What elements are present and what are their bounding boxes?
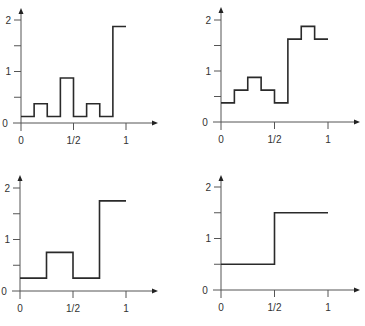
y-axis-arrow-icon — [219, 7, 224, 13]
y-tick-label: 0 — [1, 286, 7, 297]
x-axis-arrow-icon — [354, 288, 360, 293]
x-tick-label: 1/2 — [67, 135, 81, 146]
x-tick-label: 0 — [218, 302, 224, 313]
y-axis-arrow-icon — [19, 8, 24, 14]
chart-top-left: 01201/21 — [2, 8, 158, 146]
y-tick-label: 0 — [2, 118, 8, 129]
y-tick-label: 1 — [4, 234, 10, 245]
y-tick-label: 0 — [202, 117, 208, 128]
step-function-line — [221, 26, 328, 103]
step-function-line — [221, 213, 328, 265]
y-tick-label: 1 — [5, 66, 11, 77]
x-tick-label: 1 — [123, 135, 129, 146]
x-axis-arrow-icon — [354, 120, 360, 125]
step-function-line — [21, 26, 126, 116]
y-axis-arrow-icon — [219, 175, 224, 181]
y-tick-label: 1 — [205, 233, 211, 244]
y-tick-label: 1 — [205, 66, 211, 77]
x-tick-label: 1/2 — [268, 302, 282, 313]
y-tick-label: 2 — [4, 183, 10, 194]
x-tick-label: 0 — [218, 134, 224, 145]
y-tick-label: 2 — [5, 15, 11, 26]
chart-bottom-right: 01201/21 — [202, 175, 360, 313]
x-tick-label: 1 — [325, 302, 331, 313]
x-tick-label: 0 — [17, 303, 23, 314]
step-function-line — [20, 201, 126, 278]
x-tick-label: 1/2 — [268, 134, 282, 145]
x-tick-label: 1 — [123, 303, 129, 314]
y-axis-arrow-icon — [18, 175, 23, 181]
x-tick-label: 1 — [325, 134, 331, 145]
figure: 01201/21 01201/21 01201/21 01201/21 — [0, 0, 365, 326]
x-tick-label: 0 — [18, 135, 24, 146]
y-tick-label: 2 — [205, 15, 211, 26]
y-tick-label: 2 — [205, 182, 211, 193]
chart-bottom-left: 01201/21 — [1, 175, 158, 314]
chart-top-right: 01201/21 — [202, 7, 360, 145]
x-tick-label: 1/2 — [66, 303, 80, 314]
x-axis-arrow-icon — [152, 289, 158, 294]
y-tick-label: 0 — [202, 285, 208, 296]
x-axis-arrow-icon — [152, 121, 158, 126]
